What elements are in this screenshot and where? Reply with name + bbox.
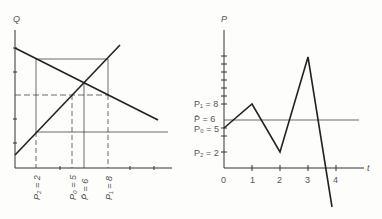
cobweb-diagram: Q P₂ = 2 P₀ = 5 P̄ = 6 P₁ = 8 [0,0,382,219]
p2-label-right: P₂ = 2 [194,148,219,158]
t-label-3: 3 [305,175,310,185]
p-axis-label: P [221,14,227,24]
supply-curve [15,45,120,155]
left-x-labels: P₂ = 2 P₀ = 5 P̄ = 6 P₁ = 8 [32,174,114,200]
t-label-4: 4 [333,175,338,185]
q-axis-label: Q [13,14,20,24]
right-chart: P t P₁ = 8 P̄ = 6 P₀ = 5 P₂ = 2 0 1 2 3 … [194,14,370,207]
p0-label: P₀ = 5 [68,174,78,200]
t-tick-labels: 0 1 2 3 4 [221,175,338,185]
t-label-2: 2 [277,175,282,185]
p2-label: P₂ = 2 [32,175,42,200]
t-label-0: 0 [221,175,226,185]
pbar-label: P̄ = 6 [80,179,90,200]
t-axis-label: t [367,163,370,173]
p1-label-right: P₁ = 8 [194,99,218,109]
right-y-labels: P₁ = 8 P̄ = 6 P₀ = 5 P₂ = 2 [194,99,219,158]
p1-label: P₁ = 8 [104,176,114,200]
t-label-1: 1 [250,175,255,185]
p0-label-right: P₀ = 5 [194,124,219,134]
left-chart: Q P₂ = 2 P₀ = 5 P̄ = 6 P₁ = 8 [13,14,172,200]
pbar-label-right: P̄ = 6 [194,114,215,124]
